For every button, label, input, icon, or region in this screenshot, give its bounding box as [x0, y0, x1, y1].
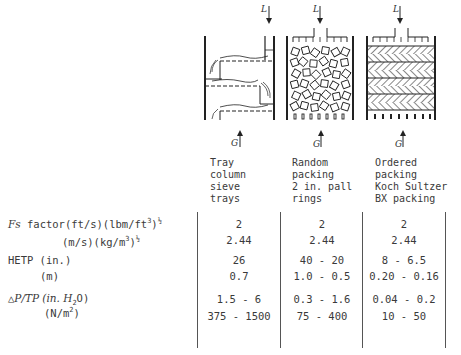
hetp-us-tray: 26 [198, 254, 280, 266]
column-header-random: Random packing 2 in. pall rings [292, 157, 352, 205]
gas-label-tray: G [231, 138, 238, 148]
liquid-label-tray: L [261, 4, 267, 14]
column-header-ordered: Ordered packing Koch Sultzer BX packing [375, 157, 447, 205]
hetp-label: HETP (in.) [8, 254, 71, 266]
dp-si-ordered: 10 - 50 [363, 310, 445, 322]
pressure-drop-label: △P/TP (in. H2O) [8, 292, 89, 307]
fs-us-tray: 2 [198, 218, 280, 230]
hetp-si-tray: 0.7 [198, 270, 280, 282]
random-packing-drawing [287, 28, 353, 120]
liquid-label-random: L [313, 4, 319, 14]
column-header-tray: Tray column sieve trays [210, 157, 246, 205]
fs-si-random: 2.44 [281, 234, 363, 246]
gas-label-ordered: G [395, 139, 402, 149]
dp-si-random: 75 - 400 [281, 310, 363, 322]
fs-factor-label: Fs factor(ft/s)(lbm/ft3)½ [8, 217, 162, 230]
fs-si-tray: 2.44 [198, 234, 280, 246]
liquid-label-ordered: L [393, 4, 399, 14]
dp-si-tray: 375 - 1500 [198, 310, 280, 322]
gas-label-random: G [313, 139, 320, 149]
dp-us-random: 0.3 - 1.6 [281, 293, 363, 305]
hetp-us-random: 40 - 20 [281, 254, 363, 266]
fs-us-random: 2 [281, 218, 363, 230]
dp-us-tray: 1.5 - 6 [198, 293, 280, 305]
hetp-si-ordered: 0.20 - 0.16 [363, 270, 445, 282]
column-drawings [0, 0, 461, 160]
dp-us-ordered: 0.04 - 0.2 [363, 293, 445, 305]
tray-column-drawing [205, 36, 274, 120]
hetp-us-ordered: 8 - 6.5 [363, 254, 445, 266]
ordered-packing-drawing [367, 28, 435, 120]
hetp-si-random: 1.0 - 0.5 [281, 270, 363, 282]
column-divider [445, 212, 446, 348]
fs-si-ordered: 2.44 [363, 234, 445, 246]
fs-us-ordered: 2 [363, 218, 445, 230]
hetp-si-label: (m) [40, 270, 59, 282]
pressure-drop-si-label: (N/m2) [44, 306, 80, 319]
fs-factor-si-label: (m/s)(kg/m3)½ [62, 235, 140, 248]
